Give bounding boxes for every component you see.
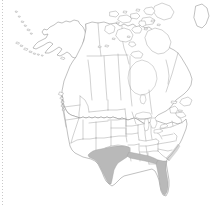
arctic-islet <box>144 28 147 30</box>
arctic-islet <box>127 36 130 38</box>
kodiak-island <box>61 57 65 60</box>
aleutian-island <box>27 29 30 31</box>
aleutian-island <box>24 25 26 27</box>
new-brunswick-border <box>170 106 178 113</box>
prince-patrick-island <box>110 11 119 17</box>
arctic-islet <box>105 45 109 47</box>
arctic-islet <box>113 38 116 40</box>
aleutian-island <box>21 21 24 23</box>
greenland-group <box>194 4 209 28</box>
aleutian-island <box>16 42 19 44</box>
arctic-islet <box>157 24 160 26</box>
north-america-map <box>0 0 214 205</box>
arctic-islet <box>123 11 127 13</box>
axel-heiberg-island <box>144 7 155 15</box>
melville-island <box>118 15 132 23</box>
distribution-map-figure <box>0 0 214 205</box>
anticosti-island <box>171 101 177 104</box>
nova-scotia-border <box>176 112 186 118</box>
aleutian-island <box>24 48 28 50</box>
greenland-outline <box>194 4 209 28</box>
aleutian-island <box>19 16 21 17</box>
bathurst-island <box>131 13 140 19</box>
arctic-islet <box>151 20 155 22</box>
coastal-islet <box>61 105 64 107</box>
aleutian-island <box>29 51 32 53</box>
aleutian-island <box>20 45 23 47</box>
newfoundland-island <box>180 97 192 106</box>
arctic-islet <box>98 46 101 48</box>
aleutian-island <box>34 53 36 55</box>
aleutian-island <box>42 55 44 56</box>
arctic-islet <box>116 22 119 24</box>
arctic-islet <box>136 9 140 11</box>
prince-edward-island <box>178 110 182 112</box>
aleutian-island <box>38 54 40 55</box>
lake-michigan <box>144 119 149 131</box>
ellesmere-island <box>153 3 174 20</box>
coastal-islet <box>62 109 64 111</box>
aleutian-island <box>31 33 33 34</box>
aleutian-island <box>15 11 17 13</box>
